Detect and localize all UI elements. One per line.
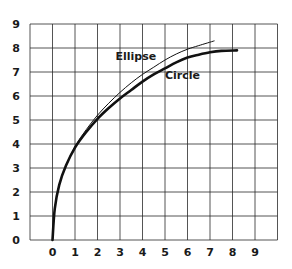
x-tick-label: 1 bbox=[71, 246, 79, 259]
y-tick-label: 4 bbox=[12, 138, 20, 151]
y-tick-label: 2 bbox=[12, 186, 20, 199]
x-tick-label: 9 bbox=[251, 246, 259, 259]
ellipse-circle-chart: 0123456789 0123456789 Ellipse Circle bbox=[0, 0, 292, 269]
x-tick-label: 3 bbox=[116, 246, 124, 259]
y-tick-label: 6 bbox=[12, 90, 20, 103]
ellipse-label: Ellipse bbox=[116, 50, 157, 63]
circle-curve bbox=[53, 50, 238, 240]
y-tick-label: 7 bbox=[12, 66, 20, 79]
x-tick-label: 0 bbox=[49, 246, 57, 259]
y-tick-label: 3 bbox=[12, 162, 20, 175]
x-axis-ticks: 0123456789 bbox=[49, 246, 259, 259]
x-tick-label: 5 bbox=[161, 246, 169, 259]
y-tick-label: 9 bbox=[12, 18, 20, 31]
curves bbox=[53, 41, 238, 240]
y-tick-label: 1 bbox=[12, 210, 20, 223]
x-tick-label: 6 bbox=[184, 246, 192, 259]
y-axis-ticks: 0123456789 bbox=[12, 18, 20, 247]
x-tick-label: 4 bbox=[139, 246, 147, 259]
x-tick-label: 8 bbox=[229, 246, 237, 259]
x-tick-label: 7 bbox=[206, 246, 214, 259]
circle-label: Circle bbox=[165, 69, 200, 82]
y-tick-label: 0 bbox=[12, 234, 20, 247]
y-tick-label: 5 bbox=[12, 114, 20, 127]
x-tick-label: 2 bbox=[94, 246, 102, 259]
y-tick-label: 8 bbox=[12, 42, 20, 55]
